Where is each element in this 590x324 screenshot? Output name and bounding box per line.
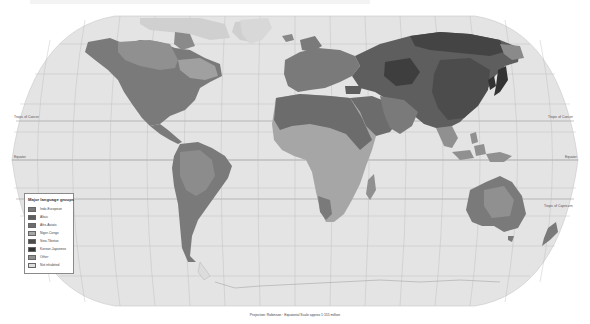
legend-label: Indo-European (40, 207, 62, 211)
world-language-map (0, 0, 590, 324)
legend-item-not-inhabited: Not inhabited (28, 261, 70, 269)
legend: Major language groups Indo-European Alta… (24, 193, 74, 274)
swatch-icon (28, 239, 36, 244)
swatch-icon (28, 255, 36, 260)
legend-item-sino-tibetan: Sino-Tibetan (28, 237, 70, 245)
legend-label: Niger-Congo (40, 231, 59, 235)
legend-item-altaic: Altaic (28, 213, 70, 221)
cropped-header-remnant (30, 0, 370, 4)
swatch-icon (28, 263, 36, 268)
legend-label: Sino-Tibetan (40, 239, 59, 243)
legend-item-indo-european: Indo-European (28, 205, 70, 213)
legend-label: Other (40, 255, 48, 259)
legend-item-afro-asiatic: Afro-Asiatic (28, 221, 70, 229)
legend-label: Afro-Asiatic (40, 223, 57, 227)
tropic-of-cancer-label-right: Tropic of Cancer (548, 115, 573, 119)
legend-title: Major language groups (28, 197, 70, 202)
legend-label: Altaic (40, 215, 48, 219)
legend-item-niger-congo: Niger-Congo (28, 229, 70, 237)
swatch-icon (28, 231, 36, 236)
equator-label-right: Equator (565, 155, 577, 159)
swatch-icon (28, 207, 36, 212)
swatch-icon (28, 215, 36, 220)
equator-label-left: Equator (14, 155, 26, 159)
swatch-icon (28, 223, 36, 228)
legend-label: Korean-Japanese (40, 247, 66, 251)
legend-label: Not inhabited (40, 263, 59, 267)
legend-item-other: Other (28, 253, 70, 261)
swatch-icon (28, 247, 36, 252)
tropic-of-capricorn-label-right: Tropic of Capricorn (544, 204, 573, 208)
projection-caption: Projection: Robinson · Equatorial Scale … (0, 313, 590, 317)
legend-item-korean-japanese: Korean-Japanese (28, 245, 70, 253)
tropic-of-cancer-label-left: Tropic of Cancer (14, 115, 39, 119)
